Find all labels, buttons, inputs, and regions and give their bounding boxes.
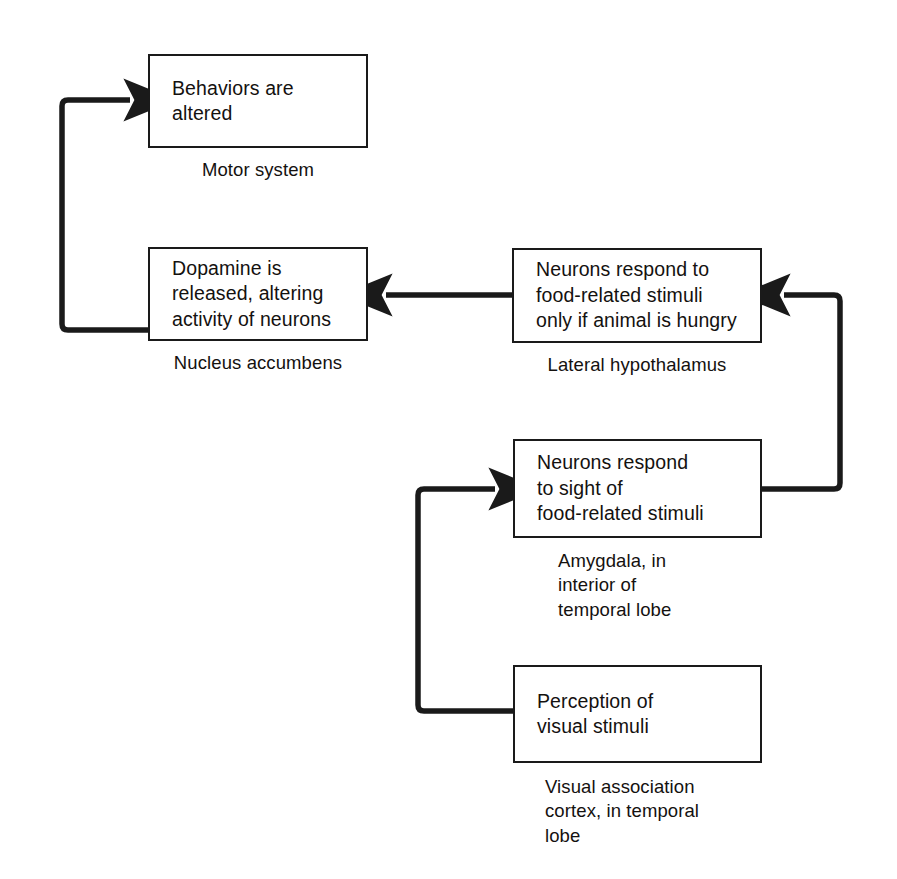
node-accumbens[interactable]: Dopamine is released, altering activity … — [148, 247, 368, 341]
connector-accumbens-to-motor — [62, 100, 148, 330]
caption-accumbens: Nucleus accumbens — [128, 351, 388, 375]
node-amygdala-text: Neurons respond to sight of food-related… — [515, 450, 714, 526]
node-visual-cortex[interactable]: Perception of visual stimuli — [513, 665, 762, 763]
node-visual-cortex-text: Perception of visual stimuli — [515, 689, 663, 740]
caption-visual-cortex: Visual association cortex, in temporal l… — [545, 775, 805, 848]
connector-amygdala-to-hypothalamus — [762, 295, 840, 489]
caption-motor: Motor system — [148, 158, 368, 182]
node-hypothalamus[interactable]: Neurons respond to food-related stimuli … — [512, 248, 762, 343]
node-accumbens-text: Dopamine is released, altering activity … — [150, 256, 341, 332]
caption-hypothalamus: Lateral hypothalamus — [492, 353, 782, 377]
node-motor-text: Behaviors are altered — [150, 76, 304, 127]
diagram-canvas: Behaviors are altered Motor system Dopam… — [0, 0, 897, 879]
caption-amygdala: Amygdala, in interior of temporal lobe — [558, 549, 798, 622]
connector-visual-cortex-to-amygdala — [418, 489, 513, 711]
node-amygdala[interactable]: Neurons respond to sight of food-related… — [513, 439, 762, 538]
node-motor[interactable]: Behaviors are altered — [148, 54, 368, 148]
node-hypothalamus-text: Neurons respond to food-related stimuli … — [514, 257, 747, 333]
connector-layer — [0, 0, 897, 879]
